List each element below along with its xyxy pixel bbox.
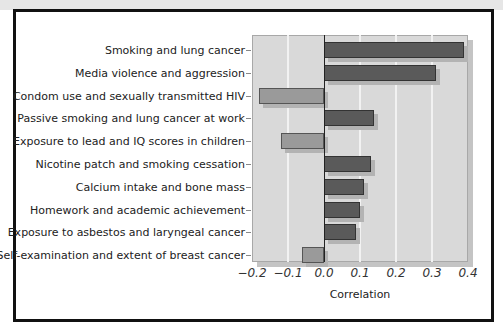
category-label: Calcium intake and bone mass (76, 180, 245, 193)
zero-line (324, 35, 325, 262)
y-tick-mark (246, 164, 251, 165)
x-tick-label: −0.2 (237, 266, 266, 280)
y-tick-mark (246, 187, 251, 188)
category-label: Passive smoking and lung cancer at work (17, 112, 245, 125)
x-tick-label: 0.3 (422, 266, 441, 280)
category-label: Self-examination and extent of breast ca… (0, 249, 245, 262)
x-axis-label: Correlation (330, 288, 391, 301)
x-tick-label: 0.2 (386, 266, 405, 280)
bar (259, 88, 324, 104)
y-tick-mark (246, 141, 251, 142)
bar (324, 65, 436, 81)
x-tick-label: −0.1 (273, 266, 302, 280)
category-label: Exposure to asbestos and laryngeal cance… (8, 226, 245, 239)
x-tick-label: 0.1 (350, 266, 369, 280)
bar (324, 202, 360, 218)
x-tick-label: 0.4 (458, 266, 477, 280)
category-label: Smoking and lung cancer (105, 44, 245, 57)
y-tick-mark (246, 210, 251, 211)
bar (324, 42, 464, 58)
y-tick-mark (246, 73, 251, 74)
category-label: Condom use and sexually transmitted HIV (13, 89, 245, 102)
y-tick-mark (246, 50, 251, 51)
bar (324, 156, 371, 172)
y-tick-mark (246, 118, 251, 119)
category-label: Exposure to lead and IQ scores in childr… (13, 135, 245, 148)
bar (324, 224, 356, 240)
y-tick-mark (246, 96, 251, 97)
y-tick-mark (246, 255, 251, 256)
y-tick-mark (246, 232, 251, 233)
category-label: Homework and academic achievement (30, 203, 245, 216)
bar (302, 247, 324, 263)
bar (324, 110, 374, 126)
category-label: Nicotine patch and smoking cessation (35, 158, 245, 171)
bar (324, 179, 364, 195)
bar (281, 133, 324, 149)
x-tick-label: 0.0 (314, 266, 333, 280)
category-label: Media violence and aggression (75, 66, 245, 79)
